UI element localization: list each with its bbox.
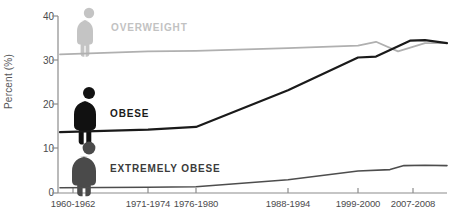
obesity-trend-chart: Percent (%) 40 30 20 10 0 1960-1962 1971… xyxy=(0,0,453,221)
series-line-obese xyxy=(60,40,447,132)
person-overweight-icon xyxy=(77,8,94,57)
series-line-overweight xyxy=(60,42,447,55)
y-axis-ticks xyxy=(52,16,58,193)
person-obese-icon xyxy=(74,87,96,145)
chart-plot-area xyxy=(0,0,453,221)
series-line-extremely-obese xyxy=(60,165,447,188)
x-axis-ticks xyxy=(73,188,413,193)
